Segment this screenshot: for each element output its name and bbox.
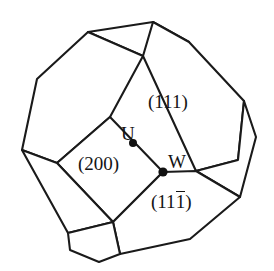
figure-container: (111) (200) (111) U W <box>0 0 274 271</box>
plane-label-111: (111) <box>148 92 188 111</box>
plane-label-11bar1-barred-index: 1 <box>176 192 186 211</box>
point-label-w: W <box>168 152 186 171</box>
point-label-u: U <box>121 124 135 143</box>
plane-label-11bar1-prefix: (11 <box>151 191 176 212</box>
point-w-dot <box>158 167 167 176</box>
plane-label-11bar1-suffix: ) <box>185 191 191 212</box>
plane-label-200: (200) <box>78 154 119 173</box>
truncated-octahedron-drawing <box>0 0 274 271</box>
plane-label-11bar1: (111) <box>151 192 191 211</box>
